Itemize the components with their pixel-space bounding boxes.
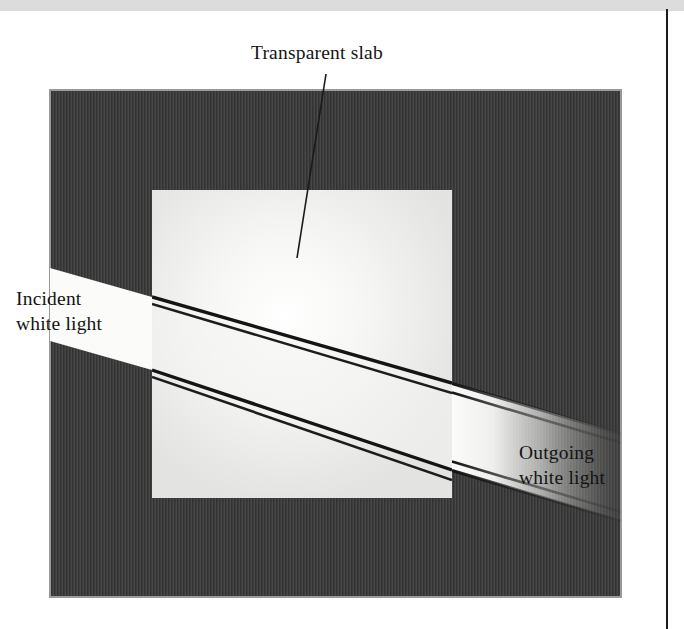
refraction-figure: Transparent slab Incident white light Ou… xyxy=(0,0,684,629)
refraction-diagram-svg xyxy=(0,0,684,629)
label-outgoing-white-light: Outgoing white light xyxy=(519,440,605,490)
figure-page: Transparent slab Incident white light Ou… xyxy=(0,0,684,629)
transparent-slab-group xyxy=(152,190,452,498)
label-incident-white-light: Incident white light xyxy=(16,286,102,336)
label-transparent-slab: Transparent slab xyxy=(251,40,383,65)
